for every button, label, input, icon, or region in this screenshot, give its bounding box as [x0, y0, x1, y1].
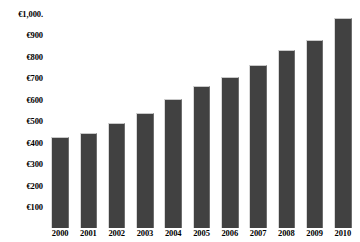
- bar: [306, 40, 324, 228]
- figure-caption: [2, 234, 358, 242]
- y-axis-tick: €900: [0, 31, 43, 40]
- bar: [80, 133, 98, 228]
- bar: [278, 50, 296, 228]
- plot-area: [46, 6, 357, 228]
- bar: [136, 113, 154, 228]
- bar: [334, 18, 352, 228]
- y-axis-tick: €1,000.: [0, 10, 43, 19]
- bar: [108, 123, 126, 228]
- y-axis-tick: €800: [0, 53, 43, 62]
- y-axis-tick: €700: [0, 74, 43, 83]
- y-axis-tick: €100: [0, 203, 43, 212]
- y-axis-tick: €500: [0, 117, 43, 126]
- y-axis-tick: €300: [0, 160, 43, 169]
- y-axis-tick: €400: [0, 139, 43, 148]
- bar: [51, 137, 69, 228]
- bar-chart: €1,000. €900 €800 €700 €600 €500 €400 €3…: [0, 0, 360, 242]
- y-axis-tick: €200: [0, 182, 43, 191]
- bars-layer: [46, 6, 357, 228]
- y-axis-tick: €600: [0, 96, 43, 105]
- bar: [164, 99, 182, 228]
- bar: [221, 77, 239, 228]
- y-axis: €1,000. €900 €800 €700 €600 €500 €400 €3…: [0, 0, 46, 228]
- bar: [193, 86, 211, 228]
- bar: [249, 65, 267, 228]
